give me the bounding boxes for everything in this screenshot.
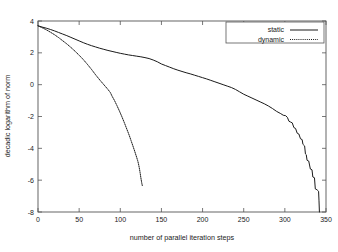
- x-tick-label: 200: [197, 216, 209, 223]
- x-axis-label: number of parallel iteration steps: [130, 233, 235, 242]
- x-tick-label: 50: [75, 216, 83, 223]
- y-axis-label: decadic logarithm of norm: [3, 75, 12, 158]
- y-tick-label: -6: [28, 177, 34, 184]
- x-tick-label: 100: [114, 216, 126, 223]
- x-tick-label: 300: [279, 216, 291, 223]
- x-tick-label: 150: [156, 216, 168, 223]
- x-tick-label: 350: [320, 216, 332, 223]
- y-tick-label: -2: [28, 113, 34, 120]
- legend-label-static: static: [268, 26, 285, 33]
- x-tick-label: 250: [238, 216, 250, 223]
- y-tick-label: -4: [28, 145, 34, 152]
- y-tick-label: 0: [30, 81, 34, 88]
- chart-legend: staticdynamic: [226, 22, 324, 44]
- y-tick-label: 2: [30, 49, 34, 56]
- line-chart: 050100150200250300350 420-2-4-6-8 static…: [0, 0, 338, 252]
- chart-container: 050100150200250300350 420-2-4-6-8 static…: [0, 0, 338, 252]
- y-tick-label: -8: [28, 209, 34, 216]
- y-tick-label: 4: [30, 18, 34, 25]
- legend-label-dynamic: dynamic: [258, 36, 285, 44]
- x-tick-label: 0: [36, 216, 40, 223]
